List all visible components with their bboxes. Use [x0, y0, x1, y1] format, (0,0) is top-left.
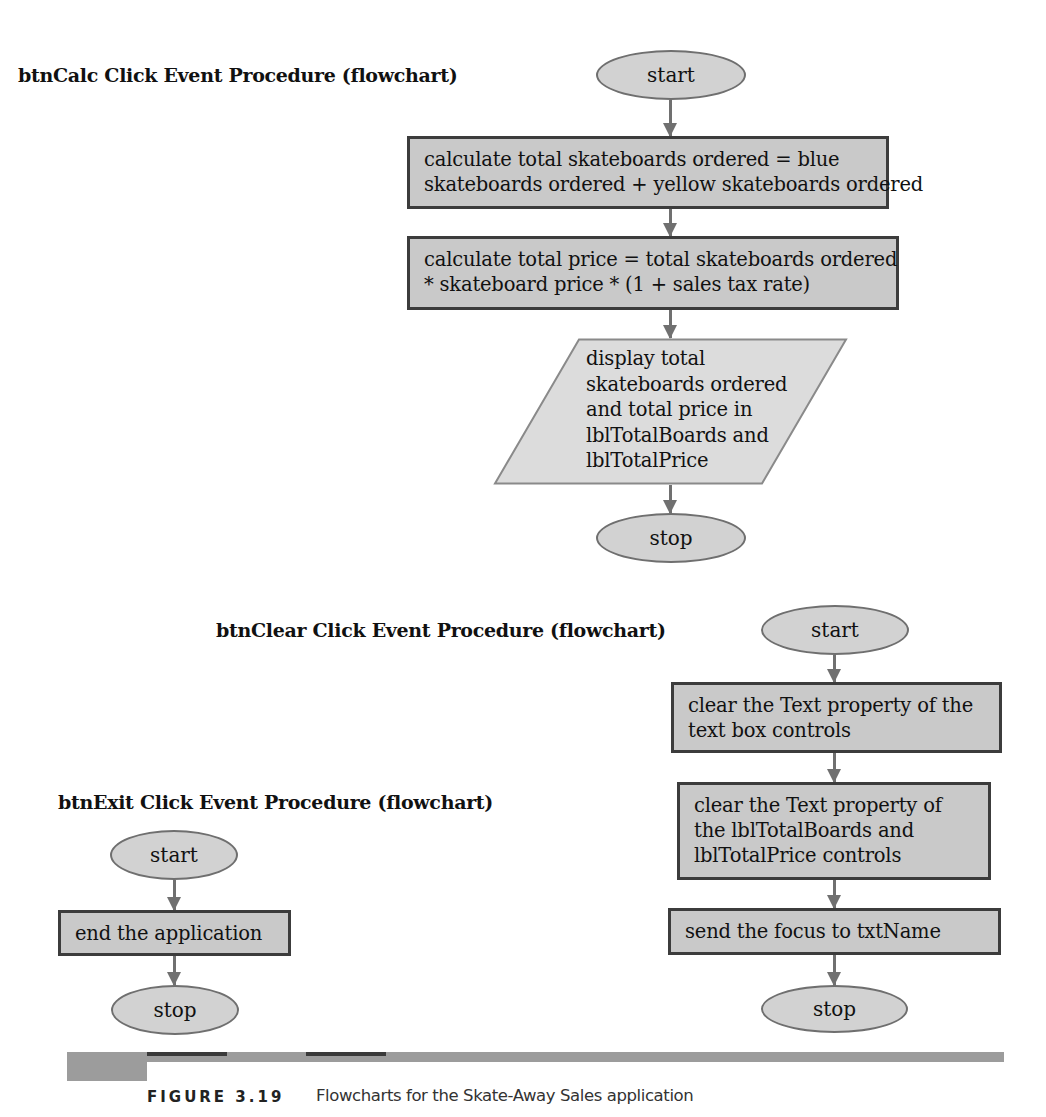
- clear-step-2-line-3: lblTotalPrice controls: [694, 843, 974, 868]
- calc-step-3-line-3: and total price in: [586, 397, 787, 423]
- calc-process-total-price: calculate total price = total skateboard…: [407, 236, 899, 310]
- clear-arrow-4: [833, 955, 836, 985]
- clear-step-1-line-2: text box controls: [688, 718, 985, 743]
- calc-stop-label: stop: [649, 526, 692, 550]
- calc-arrow-4: [669, 485, 672, 513]
- clear-start-terminal: start: [761, 605, 909, 655]
- clear-process-focus: send the focus to txtName: [668, 908, 1001, 955]
- clear-arrow-3: [833, 880, 836, 908]
- exit-stop-terminal: stop: [111, 985, 239, 1035]
- calc-step-3-line-1: display total: [586, 346, 787, 372]
- calc-process-total-boards: calculate total skateboards ordered = bl…: [407, 136, 889, 209]
- clear-process-labels: clear the Text property of the lblTotalB…: [677, 782, 991, 880]
- exit-process-end: end the application: [58, 910, 291, 956]
- figure-rule-notch: [147, 1062, 167, 1081]
- clear-step-3-line-1: send the focus to txtName: [685, 919, 984, 944]
- exit-start-label: start: [150, 843, 198, 867]
- figure-rule-accent-1: [147, 1052, 227, 1056]
- exit-arrow-2: [173, 956, 176, 985]
- calc-io-display: display total skateboards ordered and to…: [493, 338, 848, 485]
- calc-flowchart-title: btnCalc Click Event Procedure (flowchart…: [18, 64, 457, 86]
- exit-arrow-1: [173, 880, 176, 910]
- clear-flowchart-title: btnClear Click Event Procedure (flowchar…: [216, 619, 666, 641]
- figure-caption: Flowcharts for the Skate-Away Sales appl…: [316, 1086, 693, 1105]
- exit-step-1-line-1: end the application: [75, 921, 274, 946]
- exit-start-terminal: start: [110, 830, 238, 880]
- calc-arrow-3: [669, 310, 672, 338]
- clear-start-label: start: [811, 618, 859, 642]
- clear-arrow-1: [833, 655, 836, 682]
- calc-step-3-line-2: skateboards ordered: [586, 372, 787, 398]
- calc-step-1-line-2: skateboards ordered + yellow skateboards…: [424, 172, 872, 197]
- calc-step-1-line-1: calculate total skateboards ordered = bl…: [424, 147, 872, 172]
- clear-step-2-line-2: the lblTotalBoards and: [694, 818, 974, 843]
- clear-stop-terminal: stop: [761, 985, 908, 1033]
- figure-rule-accent-2: [306, 1052, 386, 1056]
- calc-step-2-line-1: calculate total price = total skateboard…: [424, 247, 882, 272]
- figure-label: FIGURE 3.19: [147, 1088, 284, 1106]
- calc-start-label: start: [647, 63, 695, 87]
- exit-stop-label: stop: [153, 998, 196, 1022]
- calc-arrow-2: [669, 209, 672, 236]
- calc-start-terminal: start: [596, 50, 746, 100]
- exit-flowchart-title: btnExit Click Event Procedure (flowchart…: [58, 791, 493, 813]
- clear-stop-label: stop: [813, 997, 856, 1021]
- calc-step-3-line-5: lblTotalPrice: [586, 448, 787, 474]
- calc-step-2-line-2: * skateboard price * (1 + sales tax rate…: [424, 272, 882, 297]
- calc-arrow-1: [669, 100, 672, 136]
- clear-process-textboxes: clear the Text property of the text box …: [671, 682, 1002, 753]
- figure-rule-tab: [67, 1052, 147, 1081]
- calc-step-3-line-4: lblTotalBoards and: [586, 423, 787, 449]
- clear-arrow-2: [833, 753, 836, 782]
- clear-step-2-line-1: clear the Text property of: [694, 793, 974, 818]
- calc-stop-terminal: stop: [596, 513, 746, 563]
- clear-step-1-line-1: clear the Text property of the: [688, 693, 985, 718]
